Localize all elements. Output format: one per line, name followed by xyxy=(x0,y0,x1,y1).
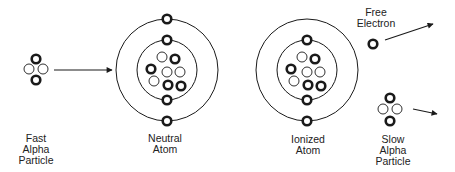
electron-icon xyxy=(303,36,312,45)
neutron-icon xyxy=(162,67,172,77)
electron-icon xyxy=(303,96,312,105)
proton-icon xyxy=(386,117,395,126)
neutral-atom-label: Neutral Atom xyxy=(148,133,182,155)
free-electron-label: Free Electron xyxy=(357,7,396,29)
neutron-icon xyxy=(302,67,312,77)
electron-icon xyxy=(369,40,378,49)
label-line: Particle xyxy=(375,156,410,167)
neutron-icon xyxy=(149,76,159,86)
neutron-icon xyxy=(392,104,402,114)
label-line: Electron xyxy=(357,18,396,29)
proton-icon xyxy=(147,65,156,74)
fast-alpha-particle xyxy=(24,55,48,85)
proton-icon xyxy=(287,65,296,74)
proton-icon xyxy=(386,94,395,103)
free-electron xyxy=(369,40,378,49)
electron-icon xyxy=(163,15,172,24)
neutron-icon xyxy=(157,52,167,62)
neutron-icon xyxy=(38,64,48,74)
label-line: Atom xyxy=(148,144,182,155)
label-line: Atom xyxy=(291,145,325,156)
ionized-atom xyxy=(256,19,358,125)
proton-icon xyxy=(32,55,41,64)
proton-icon xyxy=(317,82,326,91)
proton-icon xyxy=(304,81,313,90)
slow-alpha-arrow xyxy=(413,109,437,114)
electron-icon xyxy=(163,96,172,105)
fast-alpha-label: Fast Alpha Particle xyxy=(18,133,53,166)
neutron-icon xyxy=(24,64,34,74)
slow-alpha-label: Slow Alpha Particle xyxy=(375,134,410,167)
ionized-atom-label: Ionized Atom xyxy=(291,134,325,156)
label-line: Particle xyxy=(18,155,53,166)
electron-icon xyxy=(163,36,172,45)
proton-icon xyxy=(32,76,41,85)
neutron-icon xyxy=(378,104,388,114)
electron-icon xyxy=(303,117,312,126)
neutron-icon xyxy=(289,76,299,86)
proton-icon xyxy=(311,55,320,64)
proton-icon xyxy=(177,82,186,91)
neutral-atom xyxy=(116,15,218,126)
motion-arrows xyxy=(54,24,437,114)
electron-icon xyxy=(163,117,172,126)
neutron-icon xyxy=(297,52,307,62)
slow-alpha-particle xyxy=(378,94,402,126)
proton-icon xyxy=(164,81,173,90)
neutron-icon xyxy=(315,67,325,77)
neutron-icon xyxy=(175,67,185,77)
proton-icon xyxy=(171,55,180,64)
